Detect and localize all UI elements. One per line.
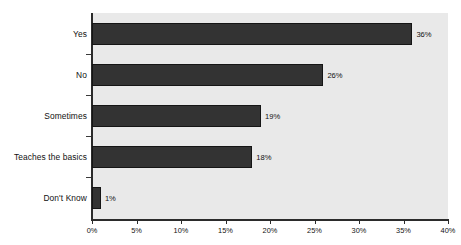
x-axis-tick xyxy=(315,220,316,224)
bar-value-label: 26% xyxy=(327,70,342,79)
bar xyxy=(92,64,323,86)
category-label: Don't Know xyxy=(43,193,87,203)
x-axis-tick xyxy=(359,220,360,224)
bar-row: Teaches the basics18% xyxy=(0,136,461,177)
bar xyxy=(92,146,252,168)
x-axis-tick-label: 35% xyxy=(396,226,411,235)
category-label: Teaches the basics xyxy=(14,152,87,162)
bar-row: No26% xyxy=(0,54,461,95)
category-label: Sometimes xyxy=(44,111,87,121)
x-axis-tick-label: 25% xyxy=(307,226,322,235)
x-axis-tick-label: 5% xyxy=(131,226,142,235)
x-axis-tick xyxy=(181,220,182,224)
x-axis-tick xyxy=(137,220,138,224)
x-axis-tick-label: 10% xyxy=(174,226,189,235)
category-label: No xyxy=(76,70,87,80)
x-axis-tick xyxy=(226,220,227,224)
category-label: Yes xyxy=(73,29,87,39)
bar-row: Yes36% xyxy=(0,13,461,54)
bar xyxy=(92,23,412,45)
bar xyxy=(92,187,101,209)
x-axis-tick-label: 20% xyxy=(263,226,278,235)
bar-chart: Yes36%No26%Sometimes19%Teaches the basic… xyxy=(0,0,461,245)
bar-value-label: 18% xyxy=(256,152,271,161)
x-axis-tick xyxy=(270,220,271,224)
bar-value-label: 19% xyxy=(265,111,280,120)
x-axis-tick-label: 15% xyxy=(218,226,233,235)
bar-row: Don't Know1% xyxy=(0,177,461,218)
x-axis-tick-label: 30% xyxy=(352,226,367,235)
bar-value-label: 36% xyxy=(416,29,431,38)
x-axis-tick xyxy=(404,220,405,224)
bar-row: Sometimes19% xyxy=(0,95,461,136)
bar xyxy=(92,105,261,127)
x-axis-tick xyxy=(92,220,93,224)
x-axis-tick xyxy=(448,220,449,224)
x-axis-tick-label: 40% xyxy=(441,226,456,235)
bar-value-label: 1% xyxy=(105,193,116,202)
x-axis-tick-label: 0% xyxy=(87,226,98,235)
